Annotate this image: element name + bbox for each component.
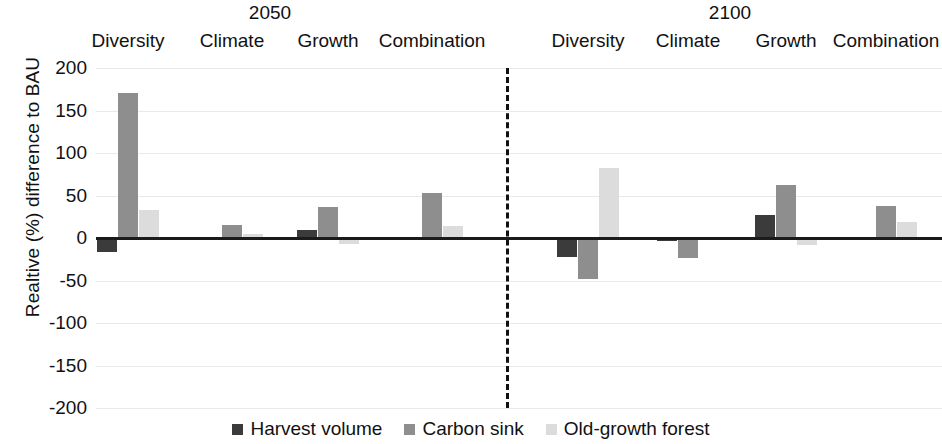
legend-entry-old-growth-forest: Old-growth forest [546, 418, 710, 440]
gridline [96, 281, 942, 282]
panel-title-2050: 2050 [180, 2, 360, 24]
bar-2100-diversity-old-growth-forest [599, 168, 619, 238]
gridline [96, 68, 942, 69]
bar-2050-growth-carbon-sink [318, 207, 338, 238]
legend-swatch-icon [404, 424, 415, 435]
y-tick-label: 150 [55, 100, 87, 122]
gridline [96, 153, 942, 154]
legend-label: Harvest volume [250, 418, 382, 440]
y-tick-label: 100 [55, 142, 87, 164]
bar-2100-diversity-harvest-volume [557, 238, 577, 257]
bar-2100-combination-old-growth-forest [897, 222, 917, 238]
gridline [96, 196, 942, 197]
legend-label: Carbon sink [422, 418, 523, 440]
legend-swatch-icon [232, 424, 243, 435]
scenario-label-2050-combination: Combination [342, 30, 522, 52]
bar-chart: Realtive (%) difference to BAU 2050 2100… [0, 0, 942, 444]
y-tick-label: 200 [55, 57, 87, 79]
chart-legend: Harvest volumeCarbon sinkOld-growth fore… [0, 418, 942, 440]
legend-entry-carbon-sink: Carbon sink [404, 418, 523, 440]
bar-2050-diversity-harvest-volume [97, 238, 117, 252]
y-tick-label: -50 [60, 270, 87, 292]
y-tick-label: 0 [76, 227, 87, 249]
gridline [96, 323, 942, 324]
bar-2100-diversity-carbon-sink [578, 238, 598, 279]
bar-2100-growth-carbon-sink [776, 185, 796, 238]
y-tick-label: 50 [66, 185, 87, 207]
legend-swatch-icon [546, 424, 557, 435]
legend-label: Old-growth forest [564, 418, 710, 440]
bar-2100-climate-carbon-sink [678, 238, 698, 258]
bar-2100-growth-harvest-volume [755, 215, 775, 238]
y-tick-label: -100 [49, 312, 87, 334]
zero-baseline [96, 237, 942, 240]
bar-2100-combination-carbon-sink [876, 206, 896, 238]
gridline [96, 111, 942, 112]
bar-2050-combination-carbon-sink [422, 193, 442, 238]
panel-title-2100: 2100 [640, 2, 820, 24]
bar-2050-diversity-carbon-sink [118, 93, 138, 238]
gridline [96, 408, 942, 409]
gridline [96, 366, 942, 367]
legend-entry-harvest-volume: Harvest volume [232, 418, 382, 440]
plot-area: 200150100500-50-100-150-200 [96, 68, 942, 408]
y-tick-label: -200 [49, 397, 87, 419]
scenario-label-2100-combination: Combination [796, 30, 942, 52]
y-tick-label: -150 [49, 355, 87, 377]
bar-2050-diversity-old-growth-forest [139, 210, 159, 238]
y-axis-title: Realtive (%) difference to BAU [22, 12, 44, 362]
